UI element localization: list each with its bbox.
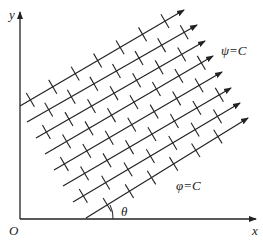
equipotential-tick: [105, 131, 113, 145]
equipotential-tick: [88, 99, 96, 113]
streamline: [54, 72, 222, 170]
equipotential-tick: [133, 73, 141, 87]
equipotential-tick: [128, 118, 136, 132]
equipotential-tick: [94, 54, 102, 68]
theta-label: θ: [121, 205, 127, 218]
equipotential-tick: [71, 67, 79, 81]
equipotential-tick: [103, 198, 111, 212]
equipotential-tick: [90, 77, 98, 91]
y-axis-label: y: [9, 8, 15, 21]
diagram-canvas: [0, 0, 263, 243]
equipotential-tick: [195, 78, 203, 92]
equipotential-tick: [191, 123, 199, 137]
streamline: [63, 88, 231, 186]
equipotential-tick: [135, 51, 143, 65]
equipotential-tick: [116, 40, 124, 54]
equipotential-tick: [214, 130, 222, 144]
phi-label: φ=C: [176, 179, 201, 192]
equipotential-tick: [67, 90, 75, 104]
equipotential-tick: [65, 112, 73, 126]
equipotential-tick: [85, 121, 93, 135]
equipotential-tick: [125, 184, 133, 198]
equipotential-tick: [148, 127, 156, 141]
equipotential-tick: [125, 140, 133, 154]
equipotential-tick: [215, 88, 223, 102]
equipotential-tick: [169, 157, 177, 171]
equipotential-tick: [213, 109, 221, 123]
equipotential-tick: [83, 144, 91, 158]
streamline: [27, 25, 197, 122]
equipotential-tick: [178, 47, 186, 61]
equipotential-tick: [180, 25, 188, 39]
streamline: [36, 41, 205, 138]
streamlines: [20, 10, 248, 218]
equipotential-tick: [112, 64, 120, 78]
equipotential-tick: [169, 136, 177, 150]
equipotential-tick: [158, 38, 166, 52]
equipotential-tick: [110, 86, 118, 100]
equipotential-tick: [79, 189, 87, 203]
origin-label: O: [9, 224, 18, 237]
equipotential-tick: [107, 108, 115, 122]
equipotential-tick: [197, 56, 205, 70]
equipotential-tick: [193, 101, 201, 115]
equipotential-tick: [60, 157, 68, 171]
streamline: [20, 10, 184, 106]
psi-label: ψ=C: [221, 44, 247, 57]
equipotential-tick: [124, 162, 132, 176]
equipotential-tick: [175, 69, 183, 83]
equipotential-tick: [152, 82, 160, 96]
x-axis-label: x: [252, 224, 258, 237]
streamline: [86, 118, 248, 218]
equipotential-tick: [45, 103, 53, 117]
streamline: [45, 56, 213, 154]
equipotential-tick: [63, 134, 71, 148]
equipotential-tick: [146, 149, 154, 163]
equipotential-tick: [150, 105, 158, 119]
equipotential-tick: [103, 153, 111, 167]
equipotential-tick: [139, 27, 147, 41]
flow-net-diagram: y x O ψ=C φ=C θ: [0, 0, 263, 243]
streamline: [73, 103, 240, 202]
equipotential-tick: [161, 14, 169, 28]
theta-arc: [110, 205, 113, 219]
equipotential-tick: [130, 95, 138, 109]
equipotential-tick: [147, 171, 155, 185]
equipotential-tick: [155, 60, 163, 74]
equipotential-tick: [26, 93, 34, 107]
equipotential-tick: [42, 125, 50, 139]
equipotential-tick: [170, 114, 178, 128]
equipotential-tick: [173, 92, 181, 106]
equipotential-tick: [102, 176, 110, 190]
equipotential-tick: [192, 143, 200, 157]
equipotential-tick: [81, 166, 89, 180]
equipotential-tick: [49, 80, 57, 94]
